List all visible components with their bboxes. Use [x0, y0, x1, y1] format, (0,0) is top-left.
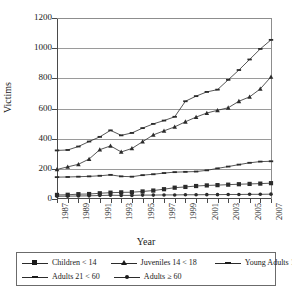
legend-label-adults-21-60: Adults 21 < 60	[52, 273, 100, 281]
x-tick-1987	[57, 199, 58, 203]
x-tick-1993	[121, 199, 122, 203]
x-tick-2005	[250, 199, 251, 203]
plot-frame-top	[57, 18, 272, 19]
legend-label-juveniles: Juveniles 14 < 18	[141, 259, 197, 267]
y-tick-label-200: 200	[18, 164, 52, 173]
x-axis-title: Year	[0, 236, 292, 247]
legend-marker-adults-21-60	[22, 273, 48, 281]
x-tick-1997	[164, 199, 165, 203]
legend-marker-children	[22, 259, 48, 267]
y-tick-label-1000: 1000	[18, 43, 52, 52]
legend-row-2: Adults 21 < 60 Adults ≥ 60	[22, 270, 270, 284]
x-tick-label-1993: 1993	[125, 203, 134, 220]
legend-item-juveniles[interactable]: Juveniles 14 < 18	[111, 259, 197, 267]
x-tick-label-1991: 1991	[104, 203, 113, 220]
legend-marker-adults-60	[114, 273, 140, 281]
y-tick-label-0: 0	[18, 194, 52, 203]
chart-legend: Children < 14 Juveniles 14 < 18 Young Ad…	[16, 252, 276, 286]
x-tick-label-1987: 1987	[61, 203, 70, 220]
x-tick-label-1999: 1999	[189, 203, 198, 220]
legend-item-adults-21-60[interactable]: Adults 21 < 60	[22, 273, 100, 281]
legend-label-children: Children < 14	[52, 259, 97, 267]
x-tick-2001	[207, 199, 208, 203]
x-tick-2003	[228, 199, 229, 203]
x-tick-1999	[185, 199, 186, 203]
legend-item-children[interactable]: Children < 14	[22, 259, 97, 267]
x-tick-1995	[143, 199, 144, 203]
y-tick-label-600: 600	[18, 104, 52, 113]
x-tick-label-2001: 2001	[211, 203, 220, 220]
x-tick-label-1997: 1997	[168, 203, 177, 220]
plot-frame-right	[271, 18, 272, 199]
plot-area	[57, 18, 272, 199]
y-tick-label-800: 800	[18, 73, 52, 82]
x-tick-2007	[271, 199, 272, 203]
x-tick-1989	[78, 199, 79, 203]
legend-row-1: Children < 14 Juveniles 14 < 18 Young Ad…	[22, 256, 270, 270]
chart-figure: Victims 020040060080010001200 1987198919…	[0, 0, 292, 298]
legend-label-adults-60: Adults ≥ 60	[144, 273, 182, 281]
x-tick-label-2003: 2003	[232, 203, 241, 220]
legend-marker-young-adults	[215, 259, 241, 267]
y-tick-label-400: 400	[18, 134, 52, 143]
y-tick-label-1200: 1200	[18, 13, 52, 22]
x-tick-label-2005: 2005	[254, 203, 263, 220]
x-tick-label-1995: 1995	[147, 203, 156, 220]
y-axis-title: Victims	[2, 82, 13, 113]
legend-item-adults-60[interactable]: Adults ≥ 60	[114, 273, 182, 281]
x-tick-1991	[100, 199, 101, 203]
legend-marker-juveniles	[111, 259, 137, 267]
x-tick-label-1989: 1989	[82, 203, 91, 220]
legend-label-young-adults: Young Adults 18 < 21	[245, 259, 292, 267]
x-tick-label-2007: 2007	[275, 203, 284, 220]
legend-item-young-adults[interactable]: Young Adults 18 < 21	[215, 259, 292, 267]
